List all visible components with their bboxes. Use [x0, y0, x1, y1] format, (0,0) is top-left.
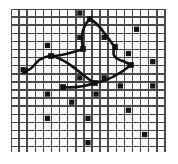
grid-lines-group [11, 9, 166, 152]
filled-cell [118, 83, 123, 88]
filled-cell [126, 51, 131, 56]
filled-cell [45, 91, 50, 96]
filled-cell [85, 140, 90, 145]
filled-cell [69, 100, 74, 105]
figure-root [0, 0, 178, 164]
filled-cell [150, 83, 155, 88]
filled-cell [77, 75, 82, 80]
filled-cell [93, 91, 98, 96]
filled-cell [126, 108, 131, 113]
filled-cells-group [21, 10, 156, 145]
grid-stage [11, 9, 166, 152]
filled-cell [85, 116, 90, 121]
filled-cell [45, 43, 50, 48]
filled-cell [102, 35, 107, 40]
filled-cell [134, 27, 139, 32]
filled-cell [77, 10, 82, 15]
filled-cell [142, 132, 147, 137]
grid-lines-layer [11, 9, 166, 152]
filled-cell [102, 75, 107, 80]
filled-cell [45, 116, 50, 121]
filled-cell [150, 59, 155, 64]
filled-cell [21, 67, 26, 72]
filled-cell [77, 35, 82, 40]
